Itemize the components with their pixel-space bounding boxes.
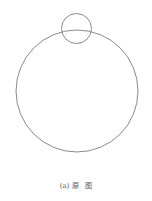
small-circle: [62, 14, 92, 44]
large-circle: [16, 30, 138, 152]
circle-diagram: [0, 0, 152, 201]
figure-caption: (a) 原 图: [0, 180, 152, 190]
